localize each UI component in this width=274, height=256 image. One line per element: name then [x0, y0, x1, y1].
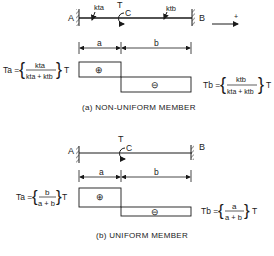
dim-label-b: b	[154, 38, 159, 48]
svg-text:a: a	[232, 202, 237, 211]
direction-label: +	[234, 13, 238, 20]
svg-text:Ta =: Ta =	[3, 65, 19, 75]
dim-label-a: a	[99, 167, 104, 177]
negative-sign-icon: ⊖	[151, 80, 159, 90]
formula-ta: Ta = { b a + b } T	[16, 187, 67, 208]
caption-b: (b) UNIFORM MEMBER	[96, 231, 188, 240]
dimension-lines	[79, 170, 191, 182]
svg-text:T: T	[64, 65, 69, 75]
svg-text:}: }	[258, 74, 264, 94]
svg-text:Tb =: Tb =	[201, 206, 218, 216]
svg-text:{: {	[220, 74, 226, 94]
positive-sign-icon: ⊕	[96, 192, 104, 202]
svg-text:ktb: ktb	[236, 75, 246, 84]
svg-text:Ta =: Ta =	[16, 192, 32, 202]
fixed-support-b-icon	[192, 9, 195, 26]
svg-text:kta + ktb: kta + ktb	[26, 73, 53, 80]
support-label-a: A	[68, 13, 74, 23]
dimension-lines	[79, 42, 191, 54]
svg-text:kta + ktb: kta + ktb	[227, 88, 254, 95]
svg-text:a + b: a + b	[225, 213, 242, 222]
point-label-c: C	[126, 143, 132, 153]
formula-ta: Ta = { kta kta + ktb } T	[3, 59, 69, 80]
svg-text:}: }	[244, 201, 250, 220]
stiffness-label-ktb: ktb	[166, 4, 176, 13]
support-label-a: A	[68, 146, 74, 156]
svg-text:a + b: a + b	[38, 199, 55, 208]
point-label-c: C	[125, 8, 131, 18]
panel-a: A B kta ktb T C + a b ⊕	[3, 0, 271, 112]
svg-text:b: b	[45, 188, 50, 197]
svg-text:Tb =: Tb =	[203, 80, 220, 90]
support-label-b: B	[199, 13, 205, 23]
support-label-b: B	[199, 142, 205, 152]
caption-a: (a) NON-UNIFORM MEMBER	[82, 103, 196, 112]
fixed-support-b-icon	[191, 145, 194, 160]
svg-text:{: {	[19, 59, 25, 79]
fixed-support-a-icon	[76, 146, 79, 163]
panel-b: A B T C a b ⊕ ⊖ Ta = { b a + b }	[16, 134, 257, 240]
torque-label-t: T	[118, 134, 124, 144]
svg-text:T: T	[266, 80, 271, 90]
formula-tb: Tb = { ktb kta + ktb } T	[203, 74, 271, 95]
dim-label-a: a	[97, 38, 102, 48]
svg-text:kta: kta	[35, 61, 46, 70]
svg-text:T: T	[62, 192, 67, 202]
stiffness-label-kta: kta	[94, 3, 105, 12]
svg-text:T: T	[252, 206, 257, 216]
svg-text:{: {	[218, 201, 224, 220]
svg-text:}: }	[56, 59, 62, 79]
formula-tb: Tb = { a a + b } T	[201, 201, 257, 222]
torsion-diagram: A B kta ktb T C + a b ⊕	[0, 0, 274, 256]
fixed-support-a-icon	[76, 9, 79, 26]
dim-label-b: b	[154, 167, 159, 177]
torque-label-t: T	[117, 0, 123, 10]
negative-sign-icon: ⊖	[151, 207, 159, 217]
positive-sign-icon: ⊕	[95, 65, 103, 75]
